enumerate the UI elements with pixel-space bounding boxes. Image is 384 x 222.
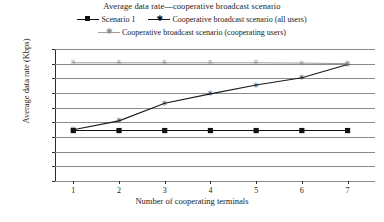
x-tick-label: 6 [292,186,312,195]
data-point-marker: ✳ [161,99,168,108]
gridline [55,181,375,182]
data-point-marker [299,128,304,133]
data-point-marker: ✳ [207,58,214,67]
star-marker-icon: ✱ [148,15,170,24]
chart-legend-row-1: Scenario 1 ✱ Cooperative broadcast scena… [0,15,384,24]
chart-legend-row-2: ✱ Cooperative broadcast scenario (cooper… [0,28,384,37]
legend-label-2: Cooperative broadcast scenario (cooperat… [122,28,286,37]
series-0 [71,128,350,133]
x-tick-mark [210,181,211,184]
data-point-marker: ✳ [344,59,351,68]
x-tick-label: 3 [155,186,175,195]
data-point-marker [345,128,350,133]
x-tick-label: 7 [338,186,358,195]
y-tick-mark [52,181,55,182]
data-point-marker: ✳ [116,116,123,125]
legend-label-1: Cooperative broadcast scenario (all user… [172,15,306,24]
data-point-marker: ✳ [70,125,77,134]
data-point-marker: ✳ [253,81,260,90]
data-point-marker: ✳ [116,58,123,67]
x-tick-mark [302,181,303,184]
data-point-marker: ✳ [207,89,214,98]
data-point-marker [116,128,121,133]
x-tick-mark [119,181,120,184]
series-layer: ✳✳✳✳✳✳✳✳✳✳✳✳✳✳ [55,49,375,181]
legend-item-scenario-1: Scenario 1 [77,15,135,24]
data-point-marker [162,128,167,133]
x-tick-label: 1 [63,186,83,195]
star-marker-grey-icon: ✱ [98,28,120,37]
chart-figure: Average data rate—cooperative broadcast … [0,0,384,222]
legend-label-0: Scenario 1 [101,15,135,24]
chart-title: Average data rate—cooperative broadcast … [0,1,384,11]
data-point-marker: ✳ [161,58,168,67]
x-tick-label: 5 [246,186,266,195]
series-1: ✳✳✳✳✳✳✳ [70,60,351,134]
data-point-marker [208,128,213,133]
legend-item-cooperating-users: ✱ Cooperative broadcast scenario (cooper… [98,28,286,37]
legend-item-all-users: ✱ Cooperative broadcast scenario (all us… [148,15,306,24]
series-2: ✳✳✳✳✳✳✳ [70,58,351,68]
data-point-marker [254,128,259,133]
square-marker-icon [77,15,99,24]
y-axis-label: Average data rate (Kbps) [21,11,31,151]
plot-area: 050100150200250300350400450 1234567 ✳✳✳✳… [55,49,375,181]
x-tick-mark [73,181,74,184]
x-axis-label: Number of cooperating terminals [0,196,384,206]
x-tick-label: 2 [109,186,129,195]
x-tick-mark [348,181,349,184]
x-tick-mark [165,181,166,184]
data-point-marker: ✳ [299,73,306,82]
data-point-marker: ✳ [70,58,77,67]
x-tick-mark [256,181,257,184]
data-point-marker: ✳ [299,59,306,68]
data-point-marker: ✳ [253,58,260,67]
x-tick-label: 4 [200,186,220,195]
